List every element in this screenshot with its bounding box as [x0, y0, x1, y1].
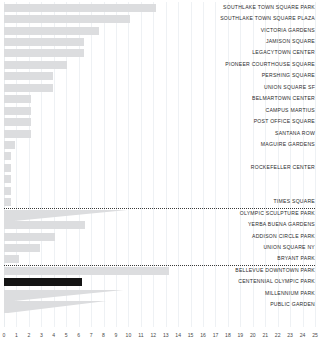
bar-label: PUBLIC GARDEN [270, 303, 315, 308]
bar-label: BELLEVUE DOWNTOWN PARK [235, 268, 315, 273]
bar-row[interactable]: CAMPUS MARTIUS [4, 105, 315, 116]
bar-row[interactable]: YERBA BUENA GARDENS [4, 219, 315, 230]
bar-row[interactable]: CENTENNIAL OLYMPIC PARK [4, 277, 315, 288]
bar-row[interactable]: BELLEVUE DOWNTOWN PARK [4, 265, 315, 276]
plot-area: SOUTHLAKE TOWN SQUARE PARKSOUTHLAKE TOWN… [4, 2, 315, 327]
bar-label: MAGUIRE GARDENS [261, 143, 315, 148]
bar-row[interactable]: BELMARTOWN CENTER [4, 94, 315, 105]
bar-row[interactable]: TIMES SQUARE [4, 197, 315, 208]
bar-label: CENTENNIAL OLYMPIC PARK [238, 280, 315, 285]
bar-row[interactable]: JAMISON SQUARE [4, 36, 315, 47]
bar[interactable] [4, 4, 156, 12]
bar-label: SOUTHLAKE TOWN SQUARE PLAZA [220, 17, 315, 22]
bar[interactable] [4, 27, 99, 35]
horizontal-bar-chart: SOUTHLAKE TOWN SQUARE PARKSOUTHLAKE TOWN… [0, 0, 330, 345]
x-tick-label: 3 [40, 333, 43, 338]
bar[interactable] [4, 152, 11, 160]
x-tick-label: 0 [3, 333, 6, 338]
bar[interactable] [4, 301, 106, 313]
x-tick-label: 20 [250, 333, 256, 338]
bar-label: BELMARTOWN CENTER [252, 97, 315, 102]
bar-label: SANTANA ROW [275, 131, 315, 136]
bar-row[interactable]: PUBLIC GARDEN [4, 300, 315, 311]
x-tick-label: 1 [15, 333, 18, 338]
bar[interactable] [4, 255, 19, 263]
x-tick-label: 15 [188, 333, 194, 338]
bar-label: CAMPUS MARTIUS [265, 108, 315, 113]
bar-label: TIMES SQUARE [274, 200, 316, 205]
bar-row[interactable]: MILLENNIUM PARK [4, 288, 315, 299]
bar-label: SOUTHLAKE TOWN SQUARE PARK [223, 5, 315, 10]
bar-label: UNION SQUARE SF [264, 85, 315, 90]
bar-label: POST OFFICE SQUARE [254, 120, 315, 125]
bar[interactable] [4, 15, 130, 23]
bar[interactable] [4, 141, 15, 149]
bar[interactable] [4, 198, 11, 206]
x-tick-label: 4 [52, 333, 55, 338]
bar-row[interactable] [4, 151, 315, 162]
bar-row[interactable]: PIONEER COURTHOUSE SQUARE [4, 59, 315, 70]
bar[interactable] [4, 221, 85, 229]
bar[interactable] [4, 244, 40, 252]
bar-label: YERBA BUENA GARDENS [248, 223, 315, 228]
bar-label: LEGACYTOWN CENTER [252, 51, 315, 56]
bar-row[interactable]: ADDISON CIRCLE PARK [4, 231, 315, 242]
x-tick-label: 12 [150, 333, 156, 338]
bar[interactable] [4, 233, 55, 241]
bar-label: UNION SQUARE NY [263, 246, 315, 251]
x-tick-label: 18 [225, 333, 231, 338]
bar[interactable] [4, 61, 67, 69]
bar-label: PIONEER COURTHOUSE SQUARE [225, 62, 315, 67]
bar-label: ROCKEFELLER CENTER [251, 165, 315, 170]
bar-row[interactable]: UNION SQUARE NY [4, 242, 315, 253]
bar-row[interactable]: SANTANA ROW [4, 128, 315, 139]
bar[interactable] [4, 84, 53, 92]
x-tick-label: 11 [138, 333, 143, 338]
bar-label: ADDISON CIRCLE PARK [252, 234, 315, 239]
bar-label: BRYANT PARK [277, 257, 315, 262]
bar-row[interactable]: PERSHING SQUARE [4, 71, 315, 82]
bar[interactable] [4, 267, 169, 275]
bar[interactable] [4, 278, 82, 286]
bar-row[interactable]: SOUTHLAKE TOWN SQUARE PARK [4, 2, 315, 13]
bar-row[interactable]: BRYANT PARK [4, 254, 315, 265]
bar[interactable] [4, 95, 31, 103]
bar[interactable] [4, 118, 31, 126]
x-tick-label: 24 [300, 333, 306, 338]
x-axis: 0123456789101112131415161718192021222324… [0, 331, 330, 345]
bar[interactable] [4, 49, 84, 57]
x-tick-label: 10 [126, 333, 132, 338]
bar[interactable] [4, 187, 11, 195]
bar-row[interactable]: ROCKEFELLER CENTER [4, 162, 315, 173]
bar[interactable] [4, 72, 53, 80]
bar[interactable] [4, 175, 11, 183]
bar-row[interactable]: UNION SQUARE SF [4, 82, 315, 93]
bar[interactable] [4, 164, 11, 172]
x-tick-label: 22 [275, 333, 281, 338]
bar-row[interactable]: MAGUIRE GARDENS [4, 139, 315, 150]
x-tick-label: 19 [238, 333, 244, 338]
bar-label: PERSHING SQUARE [262, 74, 315, 79]
bar[interactable] [4, 38, 84, 46]
bar-row[interactable]: POST OFFICE SQUARE [4, 116, 315, 127]
bar-row[interactable]: SOUTHLAKE TOWN SQUARE PLAZA [4, 13, 315, 24]
bar-row[interactable]: VICTORIA GARDENS [4, 25, 315, 36]
x-tick-label: 9 [115, 333, 118, 338]
bar-label: JAMISON SQUARE [266, 40, 315, 45]
bar[interactable] [4, 107, 31, 115]
bar-row[interactable] [4, 185, 315, 196]
bar-row[interactable] [4, 174, 315, 185]
bar-rows: SOUTHLAKE TOWN SQUARE PARKSOUTHLAKE TOWN… [4, 2, 315, 327]
x-tick-label: 7 [90, 333, 93, 338]
x-tick-label: 2 [27, 333, 30, 338]
x-tick-label: 21 [262, 333, 268, 338]
x-tick-label: 16 [200, 333, 206, 338]
bar[interactable] [4, 130, 31, 138]
bar-row[interactable]: LEGACYTOWN CENTER [4, 48, 315, 59]
bar-label: MILLENNIUM PARK [265, 291, 315, 296]
x-tick-label: 14 [175, 333, 181, 338]
bar-label: OLYMPIC SCULPTURE PARK [240, 211, 315, 216]
bar-row[interactable]: OLYMPIC SCULPTURE PARK [4, 208, 315, 219]
x-tick-label: 13 [163, 333, 169, 338]
x-tick-label: 6 [77, 333, 80, 338]
